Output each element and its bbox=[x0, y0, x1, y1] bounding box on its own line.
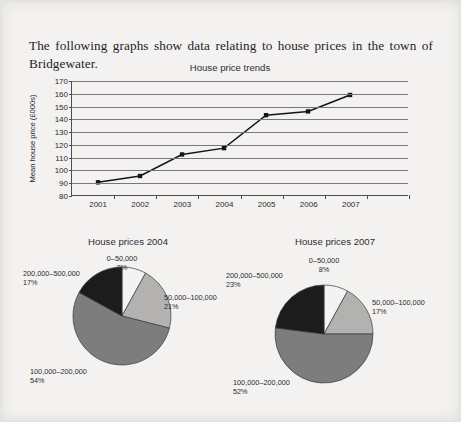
pie-2007-title: House prices 2007 bbox=[226, 236, 444, 247]
data-point-marker bbox=[222, 146, 226, 150]
y-tick-mark bbox=[69, 170, 72, 171]
pie-2007-label-2: 100,000–200,000 52% bbox=[233, 378, 319, 397]
gridline bbox=[72, 132, 408, 133]
x-tick-label: 2006 bbox=[300, 200, 318, 209]
pie-2007-label-2-pct: 52% bbox=[233, 387, 319, 396]
pie-2007-label-1-pct: 17% bbox=[372, 307, 446, 316]
pie-2004-label-2-name: 100,000–200,000 bbox=[30, 367, 87, 376]
y-axis-title-text: Mean house price (£000s) bbox=[28, 94, 37, 182]
pie-2004-label-3-name: 200,000–500,000 bbox=[23, 269, 80, 278]
pie-2004-label-3-pct: 17% bbox=[23, 278, 109, 287]
pie-2004-label-2: 100,000–200,000 54% bbox=[30, 367, 116, 386]
pie-2007-label-1: 50,000–100,000 17% bbox=[372, 298, 446, 317]
y-tick-label: 100 bbox=[55, 166, 68, 175]
pie-2007-label-3-pct: 23% bbox=[226, 280, 312, 289]
pie-2007-graphic bbox=[274, 284, 374, 384]
y-tick-mark bbox=[69, 196, 72, 197]
y-tick-mark bbox=[69, 183, 72, 184]
x-tick-mark bbox=[283, 195, 284, 199]
line-chart-plot-area: 8090100110120130140150160170200120022003… bbox=[71, 81, 408, 196]
y-tick-mark bbox=[69, 119, 72, 120]
pie-2007-label-3-name: 200,000–500,000 bbox=[226, 271, 283, 280]
y-tick-mark bbox=[69, 132, 72, 133]
y-tick-label: 90 bbox=[59, 179, 68, 188]
x-tick-label: 2002 bbox=[131, 200, 149, 209]
x-tick-label: 2001 bbox=[89, 200, 107, 209]
gridline bbox=[72, 94, 408, 95]
x-tick-mark bbox=[409, 195, 410, 199]
pie-2007-label-2-name: 100,000–200,000 bbox=[233, 378, 290, 387]
y-tick-mark bbox=[69, 94, 72, 95]
x-tick-mark bbox=[114, 195, 115, 199]
x-tick-label: 2004 bbox=[216, 200, 234, 209]
pie-2007-label-3: 200,000–500,000 23% bbox=[226, 271, 312, 290]
y-tick-label: 80 bbox=[59, 192, 68, 201]
y-tick-mark bbox=[69, 107, 72, 108]
gridline bbox=[72, 158, 408, 159]
data-point-marker bbox=[264, 113, 268, 117]
x-tick-mark bbox=[367, 195, 368, 199]
y-tick-label: 140 bbox=[55, 115, 68, 124]
pie-2004-title: House prices 2004 bbox=[22, 236, 234, 247]
y-tick-mark bbox=[69, 145, 72, 146]
gridline bbox=[72, 119, 408, 120]
y-tick-label: 110 bbox=[55, 153, 68, 162]
pie-chart-2007: House prices 2007 0–50,000 8% 50,000–100… bbox=[226, 236, 444, 416]
gridline bbox=[72, 170, 408, 171]
pie-slice bbox=[275, 285, 324, 334]
pie-2004-label-0-name: 0–50,000 bbox=[107, 254, 137, 263]
y-tick-mark bbox=[69, 158, 72, 159]
gridline bbox=[72, 145, 408, 146]
pie-2004-label-2-pct: 54% bbox=[30, 376, 116, 385]
x-tick-mark bbox=[241, 195, 242, 199]
data-point-marker bbox=[138, 174, 142, 178]
x-tick-label: 2007 bbox=[342, 200, 360, 209]
y-axis-title: Mean house price (£000s) bbox=[26, 81, 38, 196]
pie-slice bbox=[275, 328, 373, 383]
line-series bbox=[72, 81, 408, 195]
x-tick-mark bbox=[156, 195, 157, 199]
pie-2007-label-0-name: 0–50,000 bbox=[309, 256, 339, 265]
pie-2004-label-1-name: 50,000–100,000 bbox=[164, 293, 217, 302]
pie-2007-label-1-name: 50,000–100,000 bbox=[372, 298, 425, 307]
y-tick-label: 120 bbox=[55, 140, 68, 149]
y-tick-mark bbox=[69, 81, 72, 82]
gridline bbox=[72, 183, 408, 184]
data-point-marker bbox=[306, 109, 310, 113]
pie-chart-2004: House prices 2004 0–50,000 8% 50,000–100… bbox=[22, 236, 234, 416]
x-tick-mark bbox=[198, 195, 199, 199]
document-page: The following graphs show data relating … bbox=[0, 0, 461, 422]
y-tick-label: 170 bbox=[55, 77, 68, 86]
pie-2004-label-3: 200,000–500,000 17% bbox=[23, 269, 109, 288]
data-point-marker bbox=[180, 152, 184, 156]
x-tick-label: 2003 bbox=[173, 200, 191, 209]
x-tick-label: 2005 bbox=[258, 200, 276, 209]
line-chart: House price trends Mean house price (£00… bbox=[28, 60, 432, 212]
y-tick-label: 150 bbox=[55, 102, 68, 111]
y-tick-label: 130 bbox=[55, 128, 68, 137]
line-chart-title: House price trends bbox=[28, 62, 432, 73]
series-line bbox=[98, 95, 350, 182]
y-tick-label: 160 bbox=[55, 89, 68, 98]
gridline bbox=[72, 81, 408, 82]
gridline bbox=[72, 107, 408, 108]
x-tick-mark bbox=[325, 195, 326, 199]
